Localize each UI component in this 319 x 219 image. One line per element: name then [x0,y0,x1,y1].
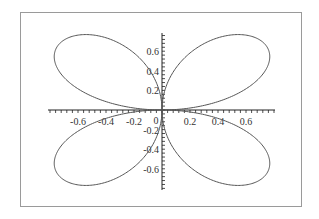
polar-rose-plot: -0.6-0.4-0.20.20.40.60.60.40.2-0.2-0.4-0… [0,0,319,219]
y-tick-label: -0.2 [143,125,159,136]
x-tick-label: -0.2 [126,116,142,127]
x-tick-label: 0.4 [212,116,225,127]
y-tick-label: -0.6 [143,164,159,175]
origin-label: 0 [154,115,159,126]
y-tick-label: 0.2 [147,85,160,96]
x-tick-label: 0.6 [240,116,253,127]
x-tick-label: -0.4 [98,116,114,127]
x-tick-label: 0.2 [184,116,197,127]
y-tick-label: -0.4 [143,144,159,155]
x-tick-label: -0.6 [70,116,86,127]
y-tick-label: 0.6 [147,46,160,57]
